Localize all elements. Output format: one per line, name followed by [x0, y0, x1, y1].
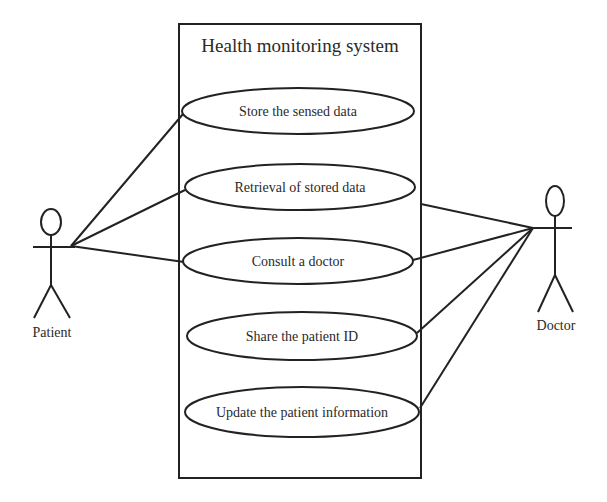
use-case-label: Store the sensed data	[239, 104, 358, 119]
assoc-doctor-update	[420, 228, 533, 408]
doctor-associations	[413, 204, 533, 408]
assoc-patient-retrieve	[71, 190, 185, 246]
assoc-patient-consult	[71, 246, 184, 262]
patient-associations	[71, 114, 185, 262]
assoc-patient-store	[71, 114, 183, 246]
actor-left-leg	[34, 285, 51, 318]
use-case-consult: Consult a doctor	[183, 238, 413, 284]
use-case-label: Retrieval of stored data	[234, 180, 366, 195]
actor-label: Doctor	[537, 318, 576, 333]
actor-right-leg	[555, 275, 573, 312]
use-case-update: Update the patient information	[185, 387, 419, 437]
assoc-doctor-retrieve	[421, 204, 533, 228]
actor-head-icon	[41, 209, 61, 235]
use-case-retrieve: Retrieval of stored data	[185, 164, 415, 210]
use-case-share: Share the patient ID	[187, 312, 417, 360]
use-case-label: Share the patient ID	[246, 329, 358, 344]
actor-head-icon	[546, 186, 564, 216]
actor-patient: Patient	[33, 209, 75, 340]
use-case-label: Consult a doctor	[252, 254, 345, 269]
actor-left-leg	[538, 275, 555, 312]
system-title: Health monitoring system	[201, 35, 399, 56]
use-case-store: Store the sensed data	[182, 88, 414, 134]
use-case-diagram: Health monitoring system Store the sense…	[0, 0, 607, 502]
actor-label: Patient	[33, 325, 72, 340]
actor-right-leg	[51, 285, 70, 318]
use-case-label: Update the patient information	[216, 405, 388, 420]
actor-doctor: Doctor	[532, 186, 576, 333]
